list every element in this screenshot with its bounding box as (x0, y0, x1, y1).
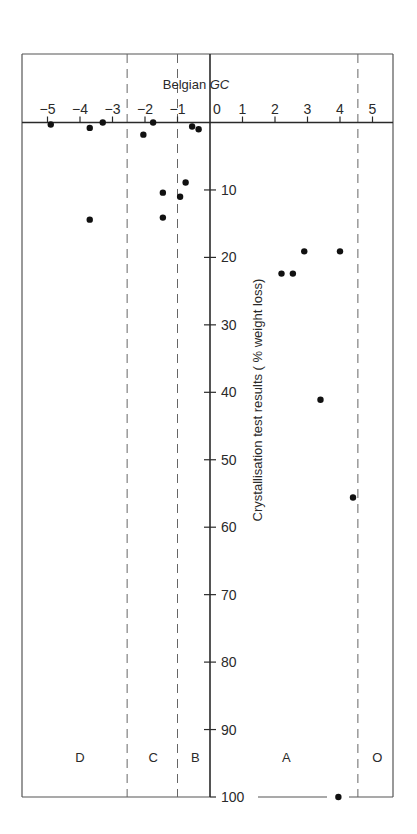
x-tick-label: −4 (72, 101, 88, 117)
y-tick-label: 10 (221, 182, 237, 198)
data-point (100, 119, 106, 125)
zone-boundaries (127, 54, 358, 797)
x-tick-label: 3 (304, 101, 312, 117)
x-axis-title: Belgian GC (163, 77, 230, 92)
data-point (48, 121, 54, 127)
y-tick-label: 50 (221, 452, 237, 468)
zone-label-c: C (148, 750, 157, 765)
data-point (140, 131, 146, 137)
data-point (87, 125, 93, 131)
axes (22, 54, 393, 797)
y-tick-label: 60 (221, 519, 237, 535)
data-point (160, 189, 166, 195)
data-point (317, 397, 323, 403)
x-tick-label: 4 (336, 101, 344, 117)
zone-label-d: D (75, 750, 84, 765)
y-tick-label: 20 (221, 249, 237, 265)
x-tick-label: 0 (213, 101, 221, 117)
x-ticks: −5−4−3−2−1012345 (40, 101, 377, 123)
x-tick-label: 1 (239, 101, 247, 117)
data-point (195, 126, 201, 132)
x-axis-title-plain: Belgian (163, 77, 206, 92)
data-point (189, 123, 195, 129)
zone-label-o: O (372, 750, 382, 765)
data-point (182, 179, 188, 185)
data-point (290, 270, 296, 276)
zone-labels: DCBAO (75, 750, 382, 765)
data-point (150, 119, 156, 125)
x-axis-title-italic: GC (210, 77, 230, 92)
x-tick-label: −3 (105, 101, 121, 117)
data-point (301, 248, 307, 254)
x-tick-label: 2 (271, 101, 279, 117)
zone-label-a: A (282, 750, 291, 765)
data-point (87, 216, 93, 222)
zone-label-b: B (191, 750, 200, 765)
x-tick-label: −2 (137, 101, 153, 117)
data-point (160, 214, 166, 220)
y-tick-label: 80 (221, 654, 237, 670)
data-point (177, 193, 183, 199)
data-point (350, 494, 356, 500)
data-point (337, 248, 343, 254)
crystallisation-vs-belgian-gc-chart: −5−4−3−2−1012345 102030405060708090100 B… (0, 0, 417, 834)
y-tick-label: 40 (221, 384, 237, 400)
y-tick-label: 70 (221, 587, 237, 603)
x-tick-label: −5 (40, 101, 56, 117)
y-tick-label: 100 (221, 789, 245, 805)
data-point (335, 794, 341, 800)
y-tick-label: 90 (221, 722, 237, 738)
plot-frame (22, 54, 393, 797)
data-points (48, 119, 357, 800)
x-tick-label: 5 (369, 101, 377, 117)
y-axis-title: Crystallisation test results ( % weight … (250, 279, 265, 522)
x-tick-label: −1 (170, 101, 186, 117)
data-point (278, 270, 284, 276)
y-tick-label: 30 (221, 317, 237, 333)
